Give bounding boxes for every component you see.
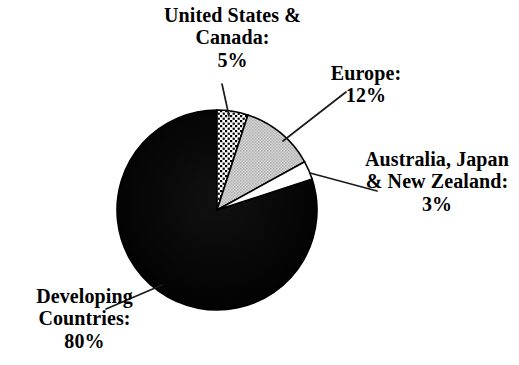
slice-label-percent: 12% bbox=[306, 84, 426, 106]
slice-label-line-2: Countries: bbox=[2, 307, 167, 329]
slice-label-australia-japan-new-zealand: Australia, Japan & New Zealand: 3% bbox=[355, 148, 519, 215]
slice-label-developing-countries: Developing Countries: 80% bbox=[2, 285, 167, 352]
slice-label-line-1: Developing bbox=[2, 285, 167, 307]
slice-label-line-2: Canada: bbox=[140, 26, 325, 48]
slice-label-line-1: Australia, Japan bbox=[355, 148, 519, 170]
slice-label-line-2: & New Zealand: bbox=[355, 170, 519, 192]
slice-label-percent: 80% bbox=[2, 330, 167, 352]
pie-chart-figure: United States & Canada: 5% Europe: 12% A… bbox=[0, 0, 519, 365]
slice-label-percent: 5% bbox=[140, 49, 325, 71]
slice-label-united-states-canada: United States & Canada: 5% bbox=[140, 4, 325, 71]
slice-label-percent: 3% bbox=[355, 193, 519, 215]
slice-label-line-1: Europe: bbox=[306, 62, 426, 84]
slice-label-line-1: United States & bbox=[140, 4, 325, 26]
slice-label-europe: Europe: 12% bbox=[306, 62, 426, 107]
